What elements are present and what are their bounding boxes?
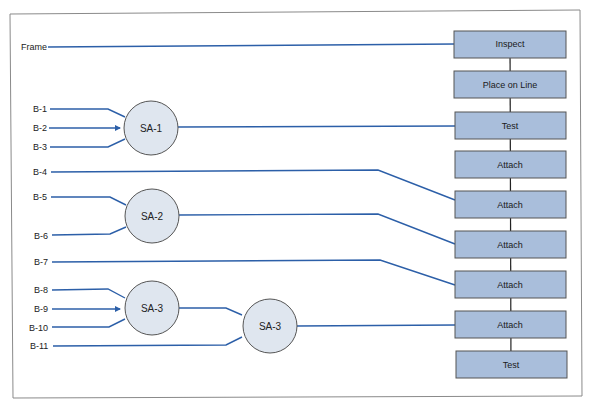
- svg-text:Attach: Attach: [497, 240, 523, 250]
- operation-attach-4: Attach: [455, 271, 566, 298]
- assembly-diagram: Frame B-1 B-2 B-3 B-4 B-5 B-6 B-7 B-8 B-…: [0, 0, 590, 407]
- input-label-b3: B-3: [33, 142, 47, 152]
- subassembly-label: SA-3: [259, 321, 282, 332]
- svg-text:Place on Line: Place on Line: [483, 80, 538, 90]
- subassembly-label: SA-3: [141, 303, 164, 314]
- svg-text:Test: Test: [503, 360, 520, 370]
- input-label-frame: Frame: [21, 42, 47, 52]
- operation-attach-1: Attach: [455, 151, 566, 178]
- input-label-b6: B-6: [34, 231, 48, 241]
- operation-inspect: Inspect: [454, 31, 566, 58]
- svg-text:Attach: Attach: [497, 160, 523, 170]
- input-label-b7: B-7: [34, 257, 48, 267]
- operation-boxes: Inspect Place on Line Test Attach Attach…: [454, 31, 567, 378]
- input-label-b4: B-4: [33, 167, 47, 177]
- operation-attach-2: Attach: [455, 191, 566, 218]
- svg-text:Test: Test: [502, 121, 519, 131]
- operation-test-2: Test: [456, 351, 567, 378]
- subassembly-sa3-second: SA-3: [243, 299, 297, 353]
- svg-text:Inspect: Inspect: [495, 39, 525, 49]
- input-label-b10: B-10: [29, 323, 48, 333]
- operation-place-on-line: Place on Line: [454, 71, 566, 98]
- operation-attach-3: Attach: [455, 231, 566, 258]
- input-label-b1: B-1: [33, 104, 47, 114]
- subassembly-sa3-first: SA-3: [125, 281, 179, 335]
- input-label-b2: B-2: [33, 123, 47, 133]
- input-label-b5: B-5: [33, 192, 47, 202]
- input-label-b11: B-11: [30, 341, 48, 351]
- svg-text:Attach: Attach: [497, 280, 523, 290]
- svg-text:Attach: Attach: [497, 200, 523, 210]
- svg-text:Attach: Attach: [497, 320, 523, 330]
- subassembly-label: SA-2: [141, 211, 164, 222]
- operation-attach-5: Attach: [455, 311, 566, 338]
- subassembly-sa1: SA-1: [124, 101, 178, 155]
- subassembly-sa2: SA-2: [125, 189, 179, 243]
- operation-test-1: Test: [455, 112, 566, 139]
- subassembly-label: SA-1: [140, 123, 163, 134]
- input-label-b9: B-9: [34, 304, 48, 314]
- input-label-b8: B-8: [34, 285, 48, 295]
